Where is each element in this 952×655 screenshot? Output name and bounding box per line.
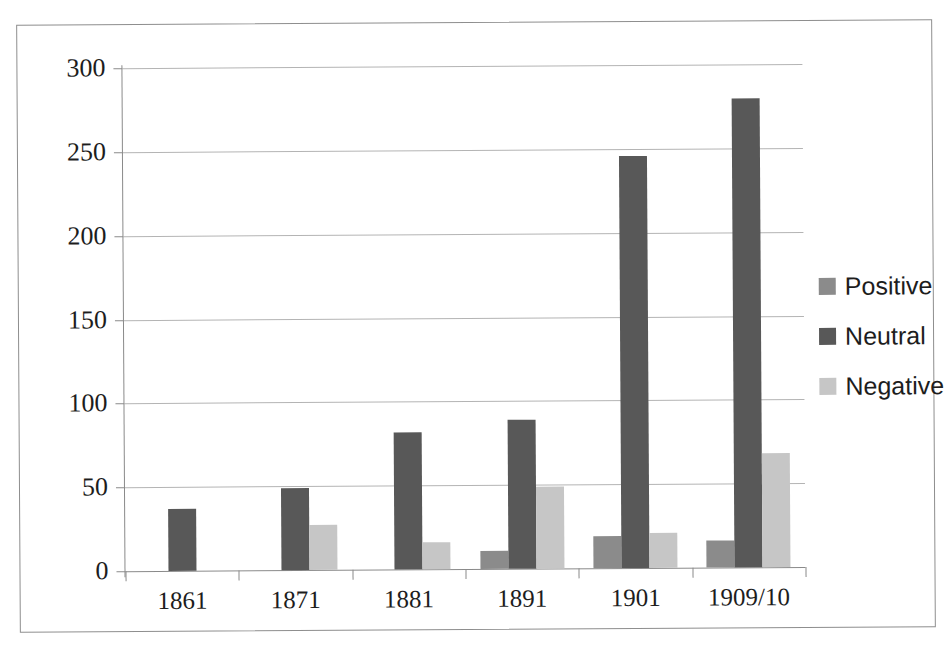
y-axis-tick-mark bbox=[116, 571, 125, 572]
bar-group bbox=[349, 66, 465, 570]
y-axis-tick-mark bbox=[115, 320, 124, 321]
y-axis-tick-marks bbox=[17, 20, 931, 26]
bar-group bbox=[122, 67, 238, 571]
y-axis-tick-label: 0 bbox=[38, 558, 108, 584]
bar-neutral-1909-10 bbox=[732, 98, 763, 568]
chart-legend: PositiveNeutralNegative bbox=[819, 260, 952, 411]
bar-negative-1871 bbox=[309, 525, 337, 570]
bar-negative-1909-10 bbox=[762, 453, 791, 567]
x-axis-tick-mark bbox=[125, 571, 126, 581]
y-axis-tick-label: 200 bbox=[36, 223, 106, 249]
x-axis-tick-label: 1891 bbox=[497, 586, 547, 611]
bar-negative-1901 bbox=[649, 533, 677, 568]
y-axis-tick-mark bbox=[114, 152, 123, 153]
legend-swatch-icon bbox=[819, 327, 836, 344]
x-axis-tick-marks bbox=[17, 20, 931, 26]
x-axis-tick-label: 1901 bbox=[611, 585, 661, 610]
bar-neutral-1861 bbox=[168, 509, 196, 571]
chart-figure: 050100150200250300 186118711881189119011… bbox=[16, 19, 936, 633]
legend-item-positive: Positive bbox=[819, 260, 952, 311]
x-axis-tick-label: 1909/10 bbox=[708, 584, 790, 610]
y-axis-tick-mark bbox=[115, 403, 124, 404]
y-axis-tick-mark bbox=[114, 236, 123, 237]
bar-neutral-1901 bbox=[619, 155, 650, 568]
legend-swatch-icon bbox=[819, 277, 836, 294]
bar-negative-1891 bbox=[536, 486, 565, 568]
x-axis-tick-label: 1881 bbox=[384, 586, 434, 611]
legend-item-neutral: Neutral bbox=[819, 310, 952, 361]
legend-item-label: Neutral bbox=[845, 323, 926, 348]
y-axis-tick-label: 150 bbox=[37, 307, 107, 333]
bar-series-container bbox=[122, 64, 802, 68]
bar-group bbox=[689, 64, 805, 568]
bar-positive-1909-10 bbox=[707, 541, 735, 568]
bar-group bbox=[236, 67, 352, 571]
bar-neutral-1871 bbox=[281, 488, 310, 570]
bar-group bbox=[576, 65, 692, 569]
x-axis-tick-mark bbox=[579, 568, 580, 578]
x-axis-tick-label: 1861 bbox=[157, 588, 207, 613]
plot-area bbox=[122, 64, 805, 571]
legend-swatch-icon bbox=[819, 377, 836, 394]
legend-item-negative: Negative bbox=[819, 360, 952, 411]
x-axis-tick-mark bbox=[465, 569, 466, 579]
y-axis-tick-mark bbox=[116, 487, 125, 488]
x-axis-tick-mark bbox=[239, 570, 240, 580]
bar-negative-1881 bbox=[423, 542, 451, 569]
x-axis-tick-mark bbox=[692, 568, 693, 578]
legend-item-label: Negative bbox=[845, 373, 944, 399]
y-axis-tick-label: 100 bbox=[37, 391, 107, 417]
x-axis-tick-label: 1871 bbox=[271, 587, 321, 612]
y-axis-tick-mark bbox=[113, 68, 122, 69]
x-axis-tick-mark bbox=[805, 567, 806, 577]
bar-neutral-1881 bbox=[394, 432, 423, 570]
bar-neutral-1891 bbox=[507, 419, 536, 568]
y-axis-tick-labels: 050100150200250300 bbox=[17, 68, 108, 572]
y-axis-tick-label: 250 bbox=[36, 139, 106, 165]
bar-group bbox=[462, 65, 578, 569]
x-axis-tick-labels: 186118711881189119011909/10 bbox=[17, 20, 931, 26]
bar-positive-1901 bbox=[593, 536, 621, 568]
y-axis-tick-label: 300 bbox=[35, 55, 105, 81]
legend-item-label: Positive bbox=[845, 273, 933, 299]
x-axis-tick-mark bbox=[352, 570, 353, 580]
y-axis-tick-label: 50 bbox=[38, 474, 108, 500]
bar-positive-1891 bbox=[480, 550, 508, 569]
